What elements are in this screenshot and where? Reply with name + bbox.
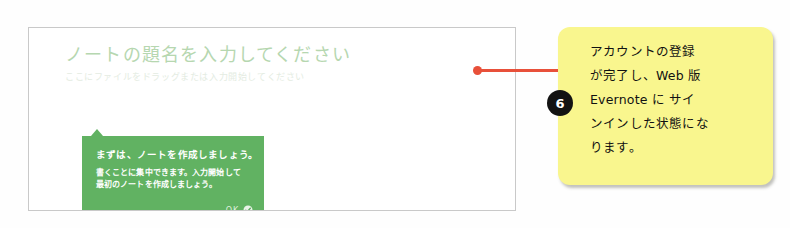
coach-tip-ok-label: OK [226, 206, 239, 212]
screenshot-panel: ノートの題名を入力してください ここにファイルをドラッグまたは入力開始してくださ… [28, 27, 516, 211]
note-body-placeholder[interactable]: ここにファイルをドラッグまたは入力開始してください [65, 70, 305, 83]
check-circle-icon [243, 205, 253, 211]
coach-tip-body-line-1: 書くことに集中できます。入力開始して [96, 167, 241, 179]
callout-text-line-3: Evernote に サイ [590, 88, 765, 112]
callout-text-line-2: が完了し、Web 版 [590, 64, 765, 88]
coach-tip-heading: まずは、ノートを作成しましょう。 [96, 147, 258, 161]
callout-text-line-5: ります。 [590, 136, 765, 160]
callout-text-line-1: アカウントの登録 [590, 40, 765, 64]
annotation-callout: 6 アカウントの登録 が完了し、Web 版 Evernote に サイ ンインし… [558, 27, 773, 185]
callout-text-line-4: ンインした状態にな [590, 112, 765, 136]
note-title-placeholder[interactable]: ノートの題名を入力してください [65, 40, 351, 66]
coach-tip-body-line-2: 最初のノートを作成しましょう。 [96, 179, 241, 191]
coach-tip-arrow-icon [91, 129, 103, 136]
page-root: ノートの題名を入力してください ここにファイルをドラッグまたは入力開始してくださ… [0, 0, 790, 228]
coach-tip-ok-button[interactable]: OK [226, 205, 253, 211]
coach-tip-body: 書くことに集中できます。入力開始して 最初のノートを作成しましょう。 [96, 167, 241, 191]
callout-text: アカウントの登録 が完了し、Web 版 Evernote に サイ ンインした状… [590, 40, 765, 160]
callout-leader-line [480, 69, 560, 72]
coach-tip: まずは、ノートを作成しましょう。 書くことに集中できます。入力開始して 最初のノ… [82, 136, 264, 211]
callout-step-badge: 6 [547, 90, 573, 116]
